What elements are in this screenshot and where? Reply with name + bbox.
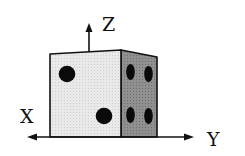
die-axes-diagram: Z X Y bbox=[0, 0, 245, 156]
y-axis-label: Y bbox=[206, 128, 220, 150]
pip bbox=[126, 64, 135, 80]
z-axis bbox=[86, 23, 93, 52]
die-side-face bbox=[121, 50, 157, 137]
pip bbox=[144, 66, 153, 82]
pip bbox=[126, 107, 135, 123]
pip bbox=[59, 66, 76, 83]
x-axis-arrowhead bbox=[27, 134, 37, 141]
pip bbox=[96, 108, 113, 125]
z-axis-label: Z bbox=[102, 13, 115, 35]
die-front-face bbox=[50, 50, 121, 137]
y-axis-arrowhead bbox=[184, 134, 194, 141]
pip bbox=[144, 108, 153, 124]
x-axis-label: X bbox=[20, 105, 34, 127]
